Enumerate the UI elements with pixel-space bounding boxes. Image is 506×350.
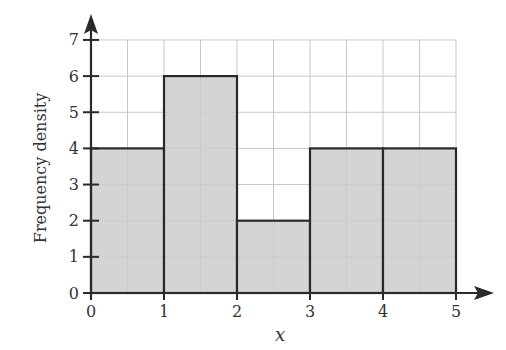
- histogram-bar: [91, 148, 164, 293]
- y-tick-label: 0: [69, 284, 79, 303]
- x-tick-label: 3: [305, 302, 315, 321]
- x-tick-label: 4: [378, 302, 388, 321]
- x-tick-label: 0: [86, 302, 96, 321]
- histogram-bar: [383, 148, 456, 293]
- chart-canvas: 01234501234567 Frequency density x: [0, 0, 506, 350]
- y-tick-label: 2: [69, 211, 79, 230]
- histogram-chart: 01234501234567 Frequency density x: [0, 0, 506, 350]
- y-tick-label: 5: [69, 103, 79, 122]
- y-tick-label: 6: [69, 67, 79, 86]
- x-axis-title: x: [275, 324, 285, 345]
- y-axis-title: Frequency density: [31, 93, 50, 243]
- y-tick-label: 4: [69, 139, 79, 158]
- x-tick-label: 5: [451, 302, 461, 321]
- histogram-bar: [237, 221, 310, 293]
- y-tick-label: 3: [69, 175, 79, 194]
- x-tick-label: 1: [159, 302, 169, 321]
- y-tick-label: 7: [69, 30, 79, 49]
- y-tick-label: 1: [69, 247, 79, 266]
- histogram-bar: [310, 148, 383, 293]
- histogram-bar: [164, 76, 237, 293]
- x-tick-label: 2: [232, 302, 242, 321]
